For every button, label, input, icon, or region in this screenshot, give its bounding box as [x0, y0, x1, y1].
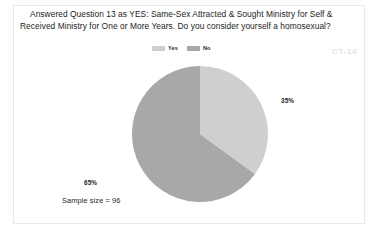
legend-swatch-icon-no [187, 46, 200, 51]
legend-item-yes[interactable]: Yes [152, 45, 178, 51]
legend-item-no[interactable]: No [187, 45, 211, 51]
legend-label-no: No [203, 45, 211, 51]
sample-size-label: Sample size = 96 [62, 196, 121, 205]
pie-value-label-no: 65% [84, 179, 97, 186]
legend-label-yes: Yes [168, 45, 178, 51]
slide-canvas: Answered Question 13 as YES: Same-Sex At… [0, 0, 381, 233]
slide-watermark: CT-14 [332, 47, 357, 56]
pie-chart-svg [132, 66, 268, 202]
legend-swatch-icon-yes [152, 46, 165, 51]
page-title-line-2: Received Ministry for One or More Years.… [20, 21, 364, 33]
chart-legend: Yes No [152, 45, 211, 51]
pie-chart [132, 66, 268, 202]
page-title-line-1: Answered Question 13 as YES: Same-Sex At… [20, 9, 364, 21]
page-title: Answered Question 13 as YES: Same-Sex At… [20, 9, 364, 32]
pie-value-label-yes: 35% [281, 97, 294, 104]
